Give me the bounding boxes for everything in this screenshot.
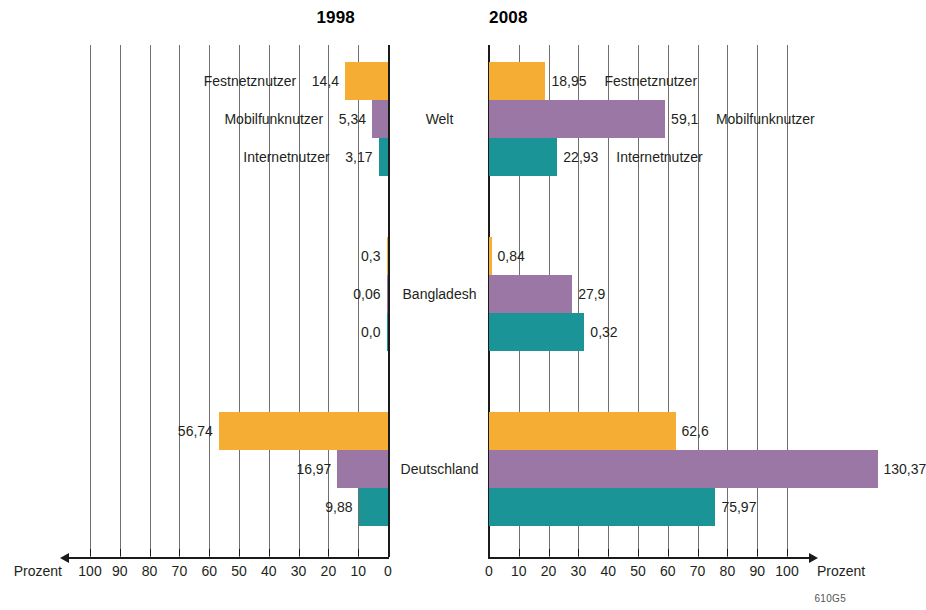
tick-label-left-30: 30 — [291, 563, 307, 579]
tick-left-100 — [90, 549, 91, 556]
axis-line-left — [68, 557, 389, 559]
gridline-left-80 — [150, 45, 151, 557]
axis-zero-left — [388, 45, 390, 557]
gridline-left-100 — [90, 45, 91, 557]
value-label-bar-1998-welt-festnetznutzer: 14,4 — [312, 62, 339, 100]
axis-arrow-right-icon — [809, 553, 818, 563]
tick-label-right-100: 100 — [775, 563, 798, 579]
tick-left-80 — [150, 549, 151, 556]
series-name-right-festnetznutzer: Festnetznutzer — [604, 62, 697, 100]
bar-2008-welt-festnetznutzer — [489, 62, 545, 100]
bar-1998-deutschland-mobilfunknutzer — [337, 450, 388, 488]
tick-label-right-50: 50 — [630, 563, 646, 579]
value-label-bar-2008-bangladesh-festnetznutzer: 0,84 — [498, 237, 525, 275]
tick-label-left-90: 90 — [112, 563, 128, 579]
value-label-bar-2008-welt-mobilfunknutzer: 59,1 — [671, 100, 698, 138]
value-label-bar-1998-deutschland-internetnutzer: 9,88 — [325, 488, 352, 526]
tick-right-40 — [608, 549, 609, 556]
bar-2008-bangladesh-mobilfunknutzer — [489, 275, 572, 313]
bar-1998-welt-festnetznutzer — [345, 62, 388, 100]
tick-left-70 — [179, 549, 180, 556]
panel-title-1998: 1998 — [316, 8, 355, 28]
tick-right-50 — [638, 549, 639, 556]
bar-2008-bangladesh-festnetznutzer — [489, 237, 492, 275]
tick-label-left-100: 100 — [78, 563, 101, 579]
group-label-deutschland: Deutschland — [401, 461, 479, 477]
bar-2008-deutschland-mobilfunknutzer — [489, 450, 878, 488]
group-label-bangladesh: Bangladesh — [403, 286, 477, 302]
value-label-bar-1998-bangladesh-internetnutzer: 0,0 — [361, 313, 380, 351]
tick-right-60 — [668, 549, 669, 556]
axis-caption-right: Prozent — [817, 563, 865, 579]
value-label-bar-2008-deutschland-mobilfunknutzer: 130,37 — [884, 450, 926, 488]
tick-label-left-60: 60 — [201, 563, 217, 579]
axis-caption-left: Prozent — [14, 563, 62, 579]
group-label-welt: Welt — [426, 111, 454, 127]
value-label-bar-2008-bangladesh-internetnutzer: 0,32 — [590, 313, 617, 351]
tick-label-right-0: 0 — [485, 563, 493, 579]
bar-2008-deutschland-festnetznutzer — [489, 412, 676, 450]
tick-left-30 — [299, 549, 300, 556]
bar-1998-bangladesh-mobilfunknutzer — [387, 275, 389, 313]
bar-1998-bangladesh-internetnutzer — [387, 313, 389, 351]
bar-2008-welt-mobilfunknutzer — [489, 100, 665, 138]
tick-left-10 — [358, 549, 359, 556]
tick-label-left-10: 10 — [350, 563, 366, 579]
value-label-bar-1998-deutschland-festnetznutzer: 56,74 — [178, 412, 213, 450]
bar-1998-deutschland-internetnutzer — [359, 488, 388, 526]
tick-right-90 — [757, 549, 758, 556]
tick-label-right-60: 60 — [660, 563, 676, 579]
tick-right-30 — [578, 549, 579, 556]
value-label-bar-1998-welt-internetnutzer: 3,17 — [345, 138, 372, 176]
series-name-right-internetnutzer: Internetnutzer — [616, 138, 702, 176]
bar-1998-welt-mobilfunknutzer — [372, 100, 388, 138]
bar-2008-bangladesh-internetnutzer — [489, 313, 584, 351]
gridline-left-70 — [179, 45, 180, 557]
tick-left-90 — [120, 549, 121, 556]
tick-label-left-80: 80 — [142, 563, 158, 579]
tick-label-left-0: 0 — [384, 563, 392, 579]
bar-1998-deutschland-festnetznutzer — [219, 412, 388, 450]
tick-label-right-10: 10 — [511, 563, 527, 579]
bar-2008-welt-internetnutzer — [489, 138, 557, 176]
value-label-bar-2008-bangladesh-mobilfunknutzer: 27,9 — [578, 275, 605, 313]
gridline-left-90 — [120, 45, 121, 557]
tick-label-right-40: 40 — [600, 563, 616, 579]
axis-arrow-left-icon — [60, 553, 69, 563]
bar-1998-welt-internetnutzer — [379, 138, 388, 176]
tick-label-left-40: 40 — [261, 563, 277, 579]
tick-right-20 — [549, 549, 550, 556]
axis-line-right — [488, 557, 809, 559]
series-name-left-mobilfunknutzer: Mobilfunknutzer — [224, 100, 323, 138]
value-label-bar-1998-deutschland-mobilfunknutzer: 16,97 — [296, 450, 331, 488]
gridline-left-60 — [209, 45, 210, 557]
tick-left-50 — [239, 549, 240, 556]
bar-2008-deutschland-internetnutzer — [489, 488, 715, 526]
source-code: 610G5 — [814, 593, 846, 604]
tick-label-right-30: 30 — [571, 563, 587, 579]
value-label-bar-1998-bangladesh-festnetznutzer: 0,3 — [361, 237, 380, 275]
tick-left-60 — [209, 549, 210, 556]
tick-right-70 — [698, 549, 699, 556]
tick-label-right-20: 20 — [541, 563, 557, 579]
value-label-bar-2008-deutschland-festnetznutzer: 62,6 — [682, 412, 709, 450]
bar-1998-bangladesh-festnetznutzer — [387, 237, 389, 275]
value-label-bar-1998-bangladesh-mobilfunknutzer: 0,06 — [353, 275, 380, 313]
tick-label-right-70: 70 — [690, 563, 706, 579]
value-label-bar-2008-welt-internetnutzer: 22,93 — [563, 138, 598, 176]
series-name-left-festnetznutzer: Festnetznutzer — [204, 62, 297, 100]
tick-label-left-20: 20 — [321, 563, 337, 579]
value-label-bar-1998-welt-mobilfunknutzer: 5,34 — [339, 100, 366, 138]
tick-label-left-70: 70 — [172, 563, 188, 579]
value-label-bar-2008-welt-festnetznutzer: 18,95 — [551, 62, 586, 100]
tick-right-80 — [727, 549, 728, 556]
series-name-left-internetnutzer: Internetnutzer — [243, 138, 329, 176]
tick-right-100 — [787, 549, 788, 556]
tick-label-right-90: 90 — [749, 563, 765, 579]
panel-title-2008: 2008 — [489, 8, 528, 28]
series-name-right-mobilfunknutzer: Mobilfunknutzer — [716, 100, 815, 138]
tick-right-10 — [519, 549, 520, 556]
tick-label-left-50: 50 — [231, 563, 247, 579]
value-label-bar-2008-deutschland-internetnutzer: 75,97 — [721, 488, 756, 526]
